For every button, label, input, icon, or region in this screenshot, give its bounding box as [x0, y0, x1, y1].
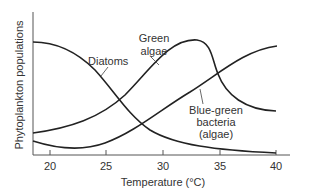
tick-30: 30: [157, 160, 169, 172]
pointer-bluegreen: [200, 89, 203, 104]
tick-20: 20: [44, 160, 56, 172]
label-green-line1: Green: [139, 32, 170, 44]
label-bluegreen-line1: Blue-green: [189, 104, 243, 116]
x-axis-label: Temperature (°C): [121, 176, 205, 188]
label-diatoms: Diatoms: [88, 55, 129, 67]
tick-35: 35: [214, 160, 226, 172]
x-tick-labels: 20 25 30 35 40: [44, 160, 282, 172]
chart: 20 25 30 35 40 Temperature (°C) Phytopla…: [0, 0, 317, 192]
label-green-line2: algae: [141, 45, 168, 57]
label-bluegreen-line3: (algae): [199, 128, 233, 140]
tick-40: 40: [270, 160, 282, 172]
label-bluegreen-line2: bacteria: [196, 116, 236, 128]
tick-25: 25: [100, 160, 112, 172]
y-axis-label: Phytoplankton populations: [13, 20, 25, 150]
pointer-diatoms: [101, 67, 108, 76]
